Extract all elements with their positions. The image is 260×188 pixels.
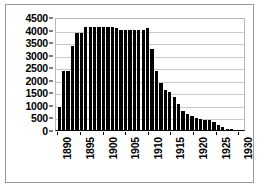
x-axis-tick-mark	[80, 132, 81, 135]
y-axis-tick-mark	[49, 105, 53, 106]
bar	[155, 71, 158, 130]
bar	[159, 83, 162, 130]
y-axis-tick-label: 3500	[25, 38, 48, 48]
plot-wrapper	[55, 18, 245, 131]
bar	[137, 30, 140, 130]
bar	[124, 30, 127, 130]
x-axis-tick-mark	[57, 132, 58, 135]
x-axis-tick-mark	[238, 132, 239, 135]
y-axis-tick-mark	[49, 68, 53, 69]
bar	[181, 111, 184, 130]
bar	[133, 30, 136, 130]
x-axis-tick-label: 1920	[198, 137, 208, 160]
bar	[195, 118, 198, 130]
y-axis-tick-label: 2000	[25, 76, 48, 86]
x-axis-tick-label: 1890	[62, 137, 72, 160]
y-axis-tick-mark	[49, 80, 53, 81]
bar	[168, 92, 171, 130]
x-axis-tick-mark	[216, 132, 217, 135]
y-axis-tick-mark	[49, 18, 53, 19]
y-axis-tick-label: 3000	[25, 51, 48, 61]
x-axis-tick-label: 1930	[243, 137, 253, 160]
bar	[221, 127, 224, 130]
x-axis-tick-mark	[148, 132, 149, 135]
bar	[164, 90, 167, 130]
x-axis-tick-label: 1900	[108, 137, 118, 160]
bar	[230, 129, 233, 130]
bar	[80, 33, 83, 130]
y-axis-tick-label: 500	[31, 113, 48, 123]
bar	[199, 119, 202, 130]
bar	[58, 107, 61, 130]
y-axis-tick-label: 4500	[25, 13, 48, 23]
x-axis-tick-mark	[170, 132, 171, 135]
x-axis-tick-label: 1905	[130, 137, 140, 160]
y-axis-tick-mark	[49, 43, 53, 44]
bar-series	[56, 19, 244, 130]
bar	[142, 30, 145, 130]
bar	[217, 125, 220, 130]
y-axis-tick-mark	[49, 118, 53, 119]
bar	[226, 129, 229, 131]
y-axis-tick-mark	[49, 55, 53, 56]
y-axis-tick-label: 1500	[25, 88, 48, 98]
bar	[119, 30, 122, 130]
y-axis-tick-label: 2500	[25, 63, 48, 73]
bar	[190, 116, 193, 130]
chart-figure: 050010001500200025003000350040004500 189…	[0, 0, 260, 188]
bar	[208, 120, 211, 130]
y-axis-tick-label: 4000	[25, 26, 48, 36]
bar	[115, 28, 118, 130]
x-axis-tick-label: 1915	[175, 137, 185, 160]
y-axis-tick-mark	[49, 93, 53, 94]
bar	[84, 27, 87, 130]
bar	[62, 71, 65, 130]
y-axis: 050010001500200025003000350040004500	[0, 18, 53, 131]
bar	[97, 27, 100, 130]
x-axis-tick-label: 1895	[85, 137, 95, 160]
bar	[212, 122, 215, 130]
x-axis-tick-label: 1910	[153, 137, 163, 160]
x-axis-tick-mark	[103, 132, 104, 135]
bar	[71, 46, 74, 130]
x-axis-tick-mark	[125, 132, 126, 135]
bar	[146, 28, 149, 130]
bar	[89, 27, 92, 130]
bar	[102, 27, 105, 130]
x-axis: 189018951900190519101915192019251930	[55, 132, 245, 182]
plot-area	[55, 18, 245, 131]
bar	[186, 114, 189, 130]
bar	[93, 27, 96, 130]
bar	[106, 27, 109, 130]
bar	[128, 30, 131, 130]
y-axis-tick-label: 1000	[25, 101, 48, 111]
bar	[177, 104, 180, 130]
bar	[203, 120, 206, 130]
bar	[150, 49, 153, 130]
bar	[75, 33, 78, 130]
x-axis-tick-label: 1925	[221, 137, 231, 160]
bar	[173, 97, 176, 130]
bar	[66, 71, 69, 130]
y-axis-tick-mark	[49, 131, 53, 132]
x-axis-tick-mark	[193, 132, 194, 135]
y-axis-tick-label: 0	[42, 126, 48, 136]
y-axis-tick-mark	[49, 30, 53, 31]
bar	[111, 27, 114, 130]
